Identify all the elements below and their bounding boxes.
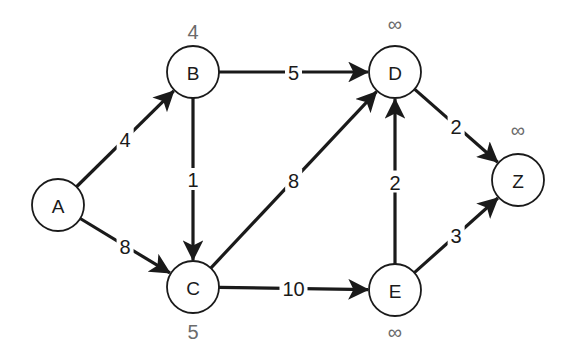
distance-label: 5 [187,321,198,343]
node-label: B [187,63,200,84]
edge-weight-label: 10 [282,278,304,300]
edge-weight-label: 1 [187,169,198,191]
node-label: A [52,196,65,217]
node-b: B4 [167,21,219,98]
distance-label: 4 [187,21,198,43]
distance-label: ∞ [388,321,402,343]
node-label: C [186,278,200,299]
distance-label: ∞ [388,13,402,35]
node-d: D∞ [369,13,421,98]
node-label: E [389,281,402,302]
edge-weight-label: 8 [288,170,299,192]
edge-weight-label: 4 [120,129,131,151]
edge-weight-label: 2 [389,172,400,194]
distance-label: ∞ [511,119,525,141]
edge-d-z: 2 [415,89,498,162]
node-z: Z∞ [492,119,544,206]
graph-diagram: 4851810223 AB4C5D∞E∞Z∞ [0,0,568,359]
node-c: C5 [167,261,219,343]
node-label: Z [512,171,524,192]
edge-a-c: 8 [80,218,170,272]
node-a: A [32,179,84,231]
edges-layer: 4851810223 [77,61,498,300]
edge-b-c: 1 [185,98,202,260]
edge-weight-label: 3 [451,225,462,247]
edge-b-d: 5 [219,61,368,84]
edge-c-d: 8 [211,92,377,268]
node-e: E∞ [369,264,421,343]
edge-weight-label: 5 [288,62,299,84]
edge-e-z: 3 [414,198,497,273]
edge-e-d: 2 [387,99,404,264]
edge-c-e: 10 [219,277,368,300]
edge-weight-label: 2 [451,116,462,138]
edge-weight-label: 8 [120,236,131,258]
edge-a-b: 4 [77,91,174,187]
node-label: D [388,63,402,84]
